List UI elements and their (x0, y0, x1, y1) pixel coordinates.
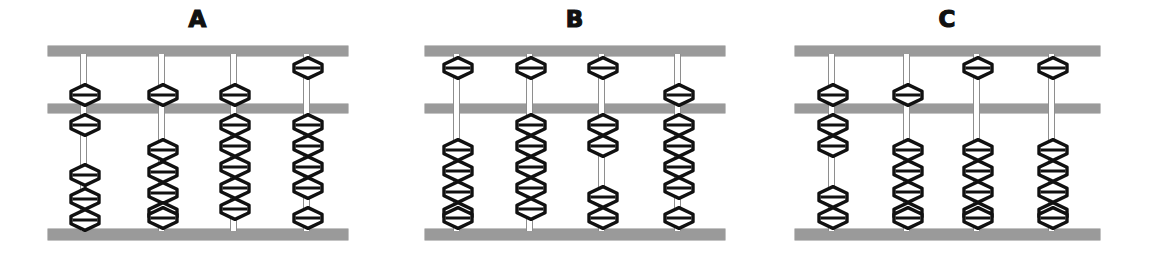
bead-upper-c-2-1[interactable] (891, 83, 925, 107)
bead-upper-a-4-1[interactable] (291, 56, 325, 80)
bead-lower-a-4-5[interactable] (291, 206, 325, 230)
abacus-a: A (48, 0, 348, 272)
bead-upper-b-4-1[interactable] (662, 83, 696, 107)
bead-lower-a-2-1[interactable] (146, 138, 180, 162)
abacus-figure: ABC (0, 0, 1153, 272)
bead-lower-c-1-2[interactable] (816, 134, 850, 158)
bead-lower-b-1-5[interactable] (441, 206, 475, 230)
bead-lower-c-1-4[interactable] (816, 206, 850, 230)
bead-lower-b-4-5[interactable] (662, 206, 696, 230)
bead-lower-a-1-4[interactable] (68, 208, 102, 232)
bead-upper-b-1-1[interactable] (441, 56, 475, 80)
bead-upper-c-3-1[interactable] (961, 56, 995, 80)
abacus-c: C (795, 0, 1100, 272)
bead-lower-a-1-1[interactable] (68, 113, 102, 137)
bead-lower-b-3-4[interactable] (586, 206, 620, 230)
bead-lower-b-3-2[interactable] (586, 134, 620, 158)
bead-lower-a-3-5[interactable] (218, 197, 252, 221)
bead-upper-a-1-1[interactable] (68, 83, 102, 107)
bead-lower-c-2-5[interactable] (891, 206, 925, 230)
abacus-label-b: B (425, 6, 725, 32)
bead-lower-c-4-5[interactable] (1036, 206, 1070, 230)
bead-lower-a-1-2[interactable] (68, 163, 102, 187)
bead-upper-a-2-1[interactable] (146, 83, 180, 107)
bead-lower-b-2-5[interactable] (514, 197, 548, 221)
bead-upper-a-3-1[interactable] (218, 83, 252, 107)
bead-upper-c-1-1[interactable] (816, 83, 850, 107)
bead-lower-c-3-5[interactable] (961, 206, 995, 230)
abacus-b: B (425, 0, 725, 272)
abacus-label-a: A (48, 6, 348, 32)
abacus-label-c: C (795, 6, 1100, 32)
bead-lower-a-4-4[interactable] (291, 176, 325, 200)
bead-upper-c-4-1[interactable] (1036, 56, 1070, 80)
bead-upper-b-2-1[interactable] (514, 56, 548, 80)
bead-lower-a-2-5[interactable] (146, 206, 180, 230)
bead-upper-b-3-1[interactable] (586, 56, 620, 80)
bead-lower-b-4-4[interactable] (662, 176, 696, 200)
